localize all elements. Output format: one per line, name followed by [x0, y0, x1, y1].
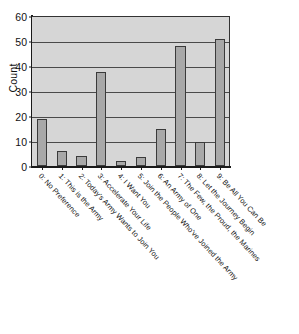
- x-tick-label: 0: No Preference: [37, 172, 81, 218]
- gridline: [32, 67, 229, 68]
- bar-chart-figure: Count 0102030405060 0: No Preference1: T…: [0, 0, 299, 334]
- y-tick-mark: [29, 167, 32, 168]
- x-tick-label: 2: Today's Army Wants to Join You: [77, 172, 160, 261]
- y-tick-mark: [29, 67, 32, 68]
- bar: [136, 157, 146, 166]
- bar: [57, 151, 67, 166]
- gridline: [32, 42, 229, 43]
- x-tick-label: 8: Let the Journey Begin: [196, 172, 257, 237]
- y-tick-label: 0: [21, 162, 27, 173]
- x-tick-label: 1: This is the Army: [57, 172, 104, 222]
- x-tick-mark: [121, 167, 122, 170]
- x-tick-mark: [42, 167, 43, 170]
- plot-area: 0102030405060: [32, 16, 230, 166]
- bar: [37, 119, 47, 167]
- gridline: [32, 117, 229, 118]
- y-tick-label: 60: [15, 12, 27, 23]
- y-axis-title: Count: [7, 43, 19, 113]
- bar: [156, 129, 166, 167]
- x-tick-mark: [101, 167, 102, 170]
- gridline: [32, 92, 229, 93]
- y-tick-mark: [29, 17, 32, 18]
- x-tick-mark: [62, 167, 63, 170]
- y-tick-label: 20: [15, 112, 27, 123]
- y-tick-label: 50: [15, 37, 27, 48]
- bar: [76, 156, 86, 166]
- x-tick-mark: [181, 167, 182, 170]
- y-tick-label: 40: [15, 62, 27, 73]
- x-tick-mark: [82, 167, 83, 170]
- y-tick-mark: [29, 117, 32, 118]
- x-tick-label: 7: The Few, the Proud, the Marines: [176, 172, 261, 263]
- x-tick-mark: [200, 167, 201, 170]
- bar: [96, 72, 106, 166]
- bar: [116, 161, 126, 166]
- y-tick-mark: [29, 142, 32, 143]
- bar: [215, 39, 225, 167]
- x-tick-label: 6: An Army of One: [156, 172, 203, 222]
- bar: [175, 46, 185, 166]
- x-tick-mark: [141, 167, 142, 170]
- x-tick-label: 3: Accelerate Your Life: [97, 172, 153, 232]
- x-tick-label: 9: Be All You Can Be: [215, 172, 268, 228]
- x-tick-mark: [220, 167, 221, 170]
- x-tick-mark: [161, 167, 162, 170]
- y-tick-label: 10: [15, 137, 27, 148]
- bar: [195, 142, 205, 166]
- x-tick-label: 4: I Want You: [116, 172, 152, 209]
- y-tick-label: 30: [15, 87, 27, 98]
- x-tick-label: 5: Join the People Who've Joined the Arm…: [136, 172, 239, 281]
- y-tick-mark: [29, 92, 32, 93]
- y-tick-mark: [29, 42, 32, 43]
